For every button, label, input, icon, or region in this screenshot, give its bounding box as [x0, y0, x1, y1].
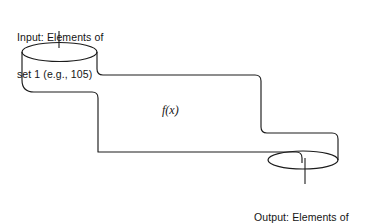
input-label: Input: Elements of set 1 (e.g., 105): [17, 6, 103, 105]
input-label-line-2: set 1 (e.g., 105): [17, 68, 103, 80]
function-pipe-diagram: Input: Elements of set 1 (e.g., 105) f(x…: [0, 0, 371, 223]
pipe-upper-wall: [97, 52, 338, 160]
output-label: Output: Elements of set 2 (e.g., 610): [254, 186, 349, 223]
input-label-line-1: Input: Elements of: [17, 31, 103, 43]
output-cylinder-mouth: [268, 151, 338, 169]
output-label-line-1: Output: Elements of: [254, 211, 349, 223]
function-label: f(x): [162, 103, 179, 118]
